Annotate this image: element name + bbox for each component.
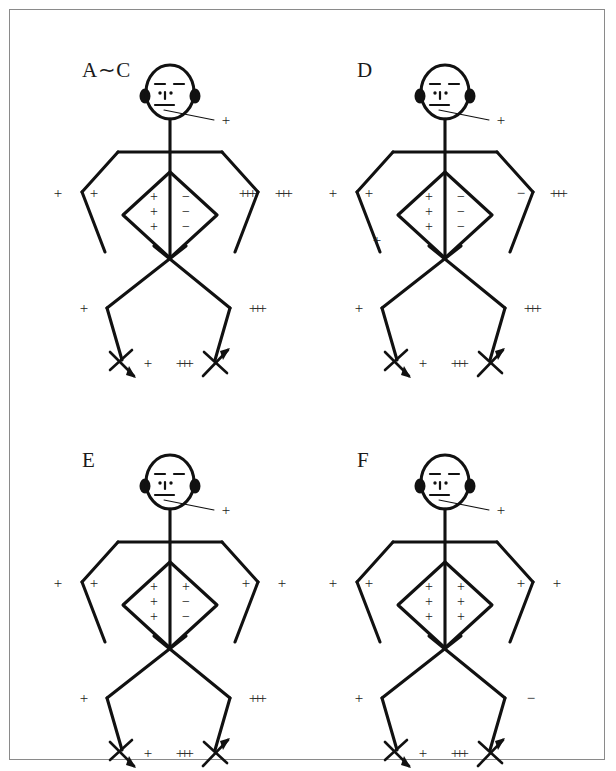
head: + [415,65,506,128]
torso-cell-left-0: + [425,189,433,204]
torso-cell-right-0: + [182,579,190,594]
right-forearm [510,582,533,642]
torso-cell-right-0: − [182,189,190,204]
left-arm-inner-mark: + [90,575,98,591]
torso-cell-left-2: + [425,609,433,624]
left-foot-mark: + [144,355,152,371]
legs: +−++++ [355,636,535,768]
head: + [415,455,506,518]
left-upper-arm [82,152,118,192]
right-eye-icon [444,481,447,484]
torso-cell-left-2: + [425,219,433,234]
torso-cell-right-2: − [182,219,190,234]
stick-figure: ++++++++++++−++++ [329,455,561,768]
left-forearm [82,582,105,642]
right-foot-mark: +++ [176,745,194,761]
left-foot-arrow-icon [110,350,136,378]
face-mark: + [222,112,230,128]
left-foot-arrow-icon [385,350,411,378]
left-forearm [357,582,380,642]
stick-figure: ++++++++++−+−+−++++++++ [54,65,293,378]
arms: ++−++++ [329,152,568,252]
torso-cell-right-0: + [457,579,465,594]
left-foot-mark: + [419,745,427,761]
left-thigh [107,636,186,698]
torso-cell-right-2: − [182,609,190,624]
right-thigh [154,246,230,308]
stick-figure: +++−+++++−+−+−++++++++ [329,65,568,378]
panel-e: E++++++++−+−++++++++ [30,430,310,770]
torso-cell-right-2: + [457,609,465,624]
torso-cell-left-2: + [150,219,158,234]
right-upper-arm [497,152,533,192]
right-arm-inner-mark: − [517,185,525,201]
left-forearm-mark: + [373,232,381,248]
right-upper-arm [497,542,533,582]
torso-cell-left-2: + [150,609,158,624]
panel-f: F++++++++++++−++++ [305,430,585,770]
panel-d-figure: +++−+++++−+−+−++++++++ [305,40,585,390]
right-arm-outer-mark: + [278,575,286,591]
right-knee-mark: +++ [249,690,267,706]
left-arm-inner-mark: + [365,575,373,591]
torso-cell-right-0: − [457,189,465,204]
left-arm-outer-mark: + [329,575,337,591]
left-eye-icon [158,481,161,484]
torso-cell-right-1: + [457,594,465,609]
right-eye-icon [169,481,172,484]
arms: ++++++++ [54,152,293,252]
left-knee-mark: + [80,300,88,316]
right-foot-mark: +++ [176,355,194,371]
right-arm-inner-mark: + [242,575,250,591]
torso-cell-left-1: + [150,594,158,609]
left-arm-outer-mark: + [54,575,62,591]
face-mark: + [497,112,505,128]
right-forearm [235,192,258,252]
right-arm-outer-mark: +++ [275,185,293,201]
left-upper-arm [82,542,118,582]
torso-cell-right-2: − [457,219,465,234]
right-upper-arm [222,542,258,582]
torso-cell-left-1: + [150,204,158,219]
right-knee-mark: − [527,690,535,706]
panel-ac-figure: ++++++++++−+−+−++++++++ [30,40,310,390]
left-knee-mark: + [80,690,88,706]
right-arm-outer-mark: + [553,575,561,591]
legs: ++++++++ [80,636,267,768]
left-eye-icon [433,481,436,484]
right-arm-outer-mark: +++ [550,185,568,201]
left-upper-arm [357,542,393,582]
torso-cell-right-1: − [182,594,190,609]
face-mark: + [497,502,505,518]
stick-figure: ++++++++−+−++++++++ [54,455,286,768]
right-foot-mark: +++ [451,355,469,371]
left-eye-icon [433,91,436,94]
left-eye-icon [158,91,161,94]
left-thigh [382,246,461,308]
right-eye-icon [169,91,172,94]
torso-cell-right-1: − [457,204,465,219]
left-foot-arrow-icon [385,740,411,768]
left-knee-mark: + [355,690,363,706]
torso-cell-left-0: + [150,189,158,204]
right-thigh [429,636,505,698]
right-foot-mark: +++ [451,745,469,761]
right-thigh [429,246,505,308]
left-foot-mark: + [144,745,152,761]
right-forearm [235,582,258,642]
right-thigh [154,636,230,698]
head: + [140,455,231,518]
right-forearm [510,192,533,252]
left-thigh [107,246,186,308]
torso-cell-left-0: + [425,579,433,594]
image-frame: A∼C++++++++++−+−+−++++++++D+++−+++++−+−+… [9,9,605,760]
torso-cell-left-1: + [425,594,433,609]
right-arm-inner-mark: + [517,575,525,591]
left-arm-inner-mark: + [365,185,373,201]
right-knee-mark: +++ [249,300,267,316]
legs: ++++++++ [80,246,267,378]
panel-d: D+++−+++++−+−+−++++++++ [305,40,585,380]
right-eye-icon [444,91,447,94]
left-arm-inner-mark: + [90,185,98,201]
left-thigh [382,636,461,698]
